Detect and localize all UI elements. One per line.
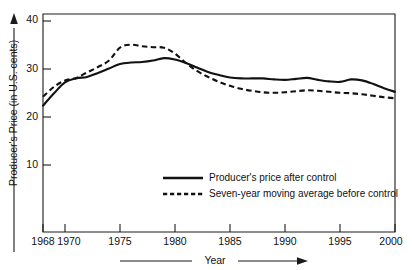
y-tick-label-40: 40 <box>26 13 38 25</box>
legend-item-solid: Producer's price after control <box>163 172 337 183</box>
x-tick-label-1970: 1970 <box>57 235 81 247</box>
y-axis-tick-labels: 40 30 20 10 <box>26 13 38 170</box>
x-axis-tick-labels: 1968 1970 1975 1980 1985 1990 1995 2000 <box>31 235 403 247</box>
y-axis-ticks <box>43 21 51 165</box>
x-tick-label-2000: 2000 <box>379 235 403 247</box>
x-axis-title-group: Year <box>120 254 308 266</box>
x-tick-label-1990: 1990 <box>273 235 297 247</box>
series-seven-year-moving-average <box>43 45 395 99</box>
series-producers-price <box>43 58 395 106</box>
chart-legend: Producer's price after control Seven-yea… <box>163 172 398 199</box>
legend-item-dashed: Seven-year moving average before control <box>163 188 398 199</box>
legend-label-solid: Producer's price after control <box>209 172 337 183</box>
legend-label-dashed: Seven-year moving average before control <box>209 188 398 199</box>
plot-frame <box>43 14 395 232</box>
x-axis-arrow-icon <box>297 257 308 264</box>
y-tick-label-10: 10 <box>26 158 38 170</box>
y-axis-title: Producer's Price (in U.S. cents) <box>7 40 19 186</box>
chart-svg: Producer's Price (in U.S. cents) 40 30 2… <box>0 0 412 270</box>
x-axis-title: Year <box>204 254 226 266</box>
x-tick-label-1995: 1995 <box>328 235 352 247</box>
x-tick-label-1985: 1985 <box>218 235 242 247</box>
x-axis-ticks <box>43 224 395 232</box>
x-tick-label-1975: 1975 <box>108 235 132 247</box>
plot-series-group <box>43 45 395 106</box>
y-tick-label-20: 20 <box>26 110 38 122</box>
y-tick-label-30: 30 <box>26 62 38 74</box>
x-tick-label-1968: 1968 <box>31 235 55 247</box>
chart-figure: Producer's Price (in U.S. cents) 40 30 2… <box>0 0 412 270</box>
x-tick-label-1980: 1980 <box>163 235 187 247</box>
